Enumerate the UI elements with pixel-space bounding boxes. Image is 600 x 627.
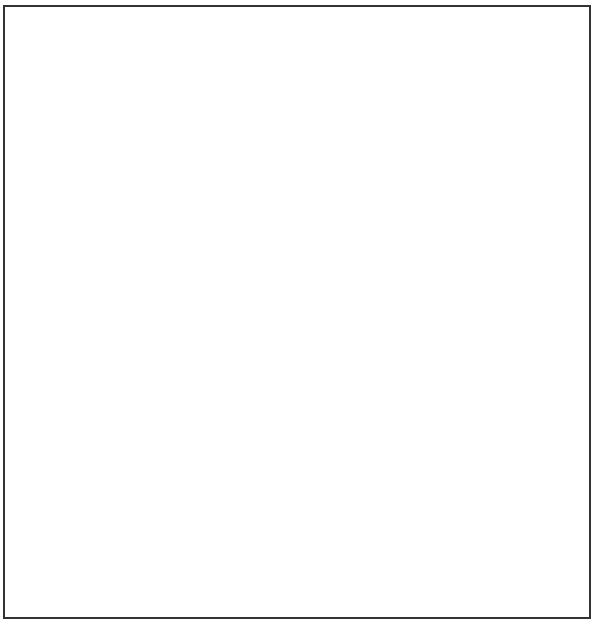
igloo-illustration (0, 0, 600, 627)
